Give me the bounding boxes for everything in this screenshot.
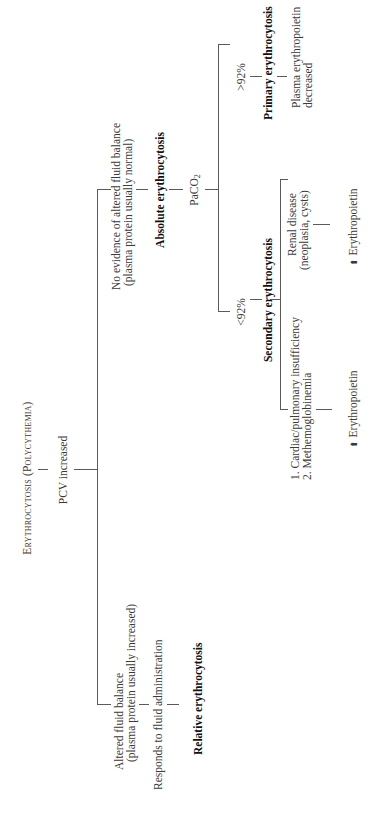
connector xyxy=(277,76,287,77)
connector xyxy=(250,299,262,300)
root-node: PCV increased xyxy=(57,436,69,504)
cause-b-effect-label: Erythropoietin xyxy=(347,188,359,255)
cause-a-effect: ⬆Erythropoietin xyxy=(347,370,360,448)
absolute-condition-line2: (plasma protein usually normal) xyxy=(122,123,134,290)
connector xyxy=(270,299,280,300)
low-threshold-label: <92% xyxy=(235,298,247,326)
paco2-bracket xyxy=(218,45,219,312)
relative-condition-line2: (plasma protein usually increased) xyxy=(125,604,137,770)
arrow-up-icon: ⬆ xyxy=(349,258,359,266)
relative-condition-line1: Altered fluid balance xyxy=(113,604,125,770)
secondary-bracket xyxy=(280,180,281,410)
connector xyxy=(38,469,48,470)
connector xyxy=(74,469,97,470)
connector xyxy=(97,704,111,705)
cause-a-line2: 2. Methemoglobinemia xyxy=(301,317,313,480)
connector xyxy=(250,76,262,77)
arrow-up-icon: ⬆ xyxy=(349,440,359,448)
connector xyxy=(280,179,288,180)
relative-condition: Altered fluid balance (plasma protein us… xyxy=(113,604,137,770)
paco2-test: PaCO2 xyxy=(188,174,200,205)
connector xyxy=(97,189,111,190)
primary-note-line2: decreased xyxy=(302,7,314,108)
connector xyxy=(139,704,149,705)
cause-b-effect: ⬆Erythropoietin xyxy=(347,188,360,266)
cause-b-line1: Renal disease xyxy=(286,190,298,270)
primary-result: Primary erythrocytosis xyxy=(262,6,274,120)
connector xyxy=(218,311,230,312)
paco2-subscript: 2 xyxy=(193,174,202,178)
paco2-label: PaCO xyxy=(188,178,200,205)
connector xyxy=(167,704,179,705)
high-threshold-label: >92% xyxy=(235,63,247,91)
cause-a-effect-label: Erythropoietin xyxy=(347,370,359,437)
cause-b-line2: (neoplasia, cysts) xyxy=(298,190,310,270)
connector xyxy=(169,189,183,190)
secondary-result: Secondary erythrocytosis xyxy=(262,238,274,362)
connector xyxy=(280,409,288,410)
absolute-result: Absolute erythrocytosis xyxy=(154,132,166,248)
relative-test: Responds to fluid administration xyxy=(152,640,164,790)
secondary-cause-renal: Renal disease (neoplasia, cysts) xyxy=(286,190,310,270)
connector xyxy=(316,409,332,410)
absolute-condition: No evidence of altered fluid balance (pl… xyxy=(110,123,134,290)
main-bracket xyxy=(97,190,98,705)
absolute-condition-line1: No evidence of altered fluid balance xyxy=(110,123,122,290)
diagram-title: Erythrocytosis (Polycythemia) xyxy=(21,401,33,554)
connector xyxy=(205,189,218,190)
primary-note: Plasma erythropoietin decreased xyxy=(290,7,314,108)
relative-result: Relative erythrocytosis xyxy=(192,642,204,755)
primary-note-line1: Plasma erythropoietin xyxy=(290,7,302,108)
connector xyxy=(313,224,330,225)
erythrocytosis-flowchart: Erythrocytosis (Polycythemia) PCV increa… xyxy=(0,0,371,836)
cause-a-line1: 1. Cardiac/pulmonary insufficiency xyxy=(289,317,301,480)
connector xyxy=(218,44,230,45)
secondary-cause-cardiopulmonary: 1. Cardiac/pulmonary insufficiency 2. Me… xyxy=(289,317,313,480)
connector xyxy=(136,189,148,190)
